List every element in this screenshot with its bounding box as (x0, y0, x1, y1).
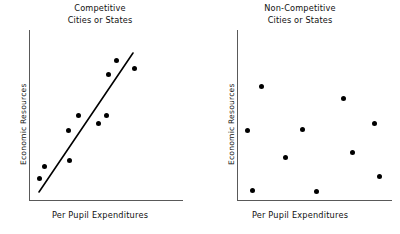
chart-title-non-competitive: Non-Competitive Cities or States (200, 3, 400, 26)
trendline-left (0, 0, 200, 234)
data-point (245, 128, 250, 133)
data-point (350, 150, 355, 155)
y-axis-line-right (237, 30, 238, 201)
data-point (250, 188, 255, 193)
data-point (372, 121, 377, 126)
chart-title-line1: Non-Competitive (264, 3, 335, 13)
data-point (377, 174, 382, 179)
chart-title-line2: Cities or States (200, 15, 400, 27)
data-point (314, 189, 319, 194)
chart-panel-non-competitive: Non-Competitive Cities or States Economi… (200, 0, 400, 234)
data-point (283, 155, 288, 160)
x-axis-label-right: Per Pupil Expenditures (200, 210, 400, 220)
figure-two-scatterplots: Competitive Cities or States Economic Re… (0, 0, 400, 234)
chart-panel-competitive: Competitive Cities or States Economic Re… (0, 0, 200, 234)
data-point (341, 96, 346, 101)
x-axis-line-right (237, 200, 392, 201)
data-point (300, 127, 305, 132)
data-point (259, 84, 264, 89)
y-axis-label-right: Economic Resources (227, 83, 236, 165)
